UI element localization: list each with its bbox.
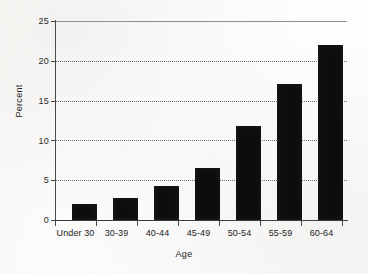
- y-axis-tick-label-25: 25: [23, 16, 49, 26]
- x-axis-tick-mark-0: [55, 221, 56, 226]
- bar-45-49[interactable]: [195, 168, 220, 220]
- x-axis-tick-mark-5: [260, 221, 261, 226]
- bar-60-64[interactable]: [318, 45, 343, 220]
- y-axis-tick-label-5: 5: [23, 175, 49, 185]
- y-axis-tick-label-0: 0: [23, 215, 49, 225]
- x-axis-tick-mark-6: [301, 221, 302, 226]
- bar-40-44[interactable]: [154, 186, 179, 220]
- bar-chart-figure: 25 20 15 10 5 0 Under 30 30-3: [0, 0, 368, 274]
- y-axis-title: Percent: [14, 71, 24, 131]
- x-axis-tick-mark-2: [137, 221, 138, 226]
- x-axis-tick-mark-4: [219, 221, 220, 226]
- bars-layer: [55, 21, 347, 220]
- y-axis-tick-label-20: 20: [23, 56, 49, 66]
- y-axis-tick-labels: 25 20 15 10 5 0: [16, 0, 49, 274]
- x-axis-title: Age: [0, 249, 368, 259]
- bar-55-59[interactable]: [277, 84, 302, 220]
- bar-under-30[interactable]: [72, 204, 97, 220]
- y-axis-tick-label-10: 10: [23, 136, 49, 146]
- x-axis-line: [54, 220, 348, 221]
- x-axis-tick-mark-3: [178, 221, 179, 226]
- y-axis-line: [55, 20, 56, 221]
- x-axis-tick-mark-7: [342, 221, 343, 226]
- bar-30-39[interactable]: [113, 198, 138, 220]
- x-axis-tick-label-60-64: 60-64: [296, 228, 347, 238]
- bar-50-54[interactable]: [236, 126, 261, 220]
- y-axis-tick-label-15: 15: [23, 96, 49, 106]
- x-axis-tick-mark-1: [96, 221, 97, 226]
